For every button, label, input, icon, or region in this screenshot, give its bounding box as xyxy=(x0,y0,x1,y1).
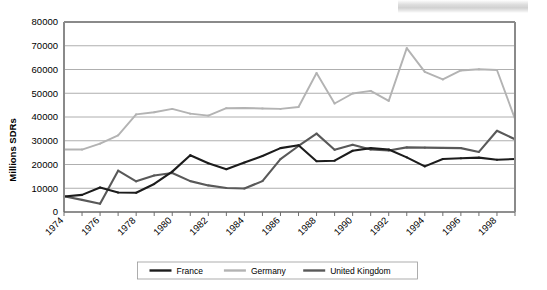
data-point xyxy=(81,194,83,196)
x-tick-label: 1990 xyxy=(331,215,354,238)
data-point xyxy=(280,158,282,160)
y-axis-tick-labels: 0100002000030000400005000060000700008000… xyxy=(32,16,58,217)
legend-label-united-kingdom: United Kingdom xyxy=(330,266,390,276)
data-point xyxy=(298,144,300,146)
data-point xyxy=(334,149,336,151)
data-point xyxy=(117,134,119,136)
y-tick-label: 60000 xyxy=(32,64,58,75)
data-point xyxy=(207,115,209,117)
x-tick-label: 1996 xyxy=(440,215,463,238)
data-point xyxy=(244,162,246,164)
data-point xyxy=(81,199,83,201)
data-point xyxy=(388,100,390,102)
data-point xyxy=(424,166,426,168)
data-point xyxy=(135,113,137,115)
data-point xyxy=(478,68,480,70)
data-point xyxy=(460,157,462,159)
data-point xyxy=(496,130,498,132)
data-point xyxy=(406,47,408,49)
series-line-germany xyxy=(64,48,515,149)
line-chart: 0100002000030000400005000060000700008000… xyxy=(0,0,547,290)
x-tick-label: 1982 xyxy=(187,215,210,238)
x-tick-label: 1986 xyxy=(259,215,282,238)
data-point xyxy=(316,160,318,162)
data-point xyxy=(244,107,246,109)
data-point xyxy=(189,113,191,115)
data-point xyxy=(99,187,101,189)
y-tick-label: 20000 xyxy=(32,159,58,170)
data-point xyxy=(316,133,318,135)
x-tick-label: 1988 xyxy=(295,215,318,238)
data-point xyxy=(207,185,209,187)
data-point xyxy=(352,144,354,146)
data-point xyxy=(280,108,282,110)
data-point xyxy=(189,154,191,156)
data-point xyxy=(117,192,119,194)
data-point xyxy=(117,170,119,172)
data-point xyxy=(225,168,227,170)
scan-artifact xyxy=(398,0,528,13)
data-point xyxy=(171,108,173,110)
data-point xyxy=(496,69,498,71)
data-point xyxy=(262,108,264,110)
data-point xyxy=(442,147,444,149)
y-tick-label: 40000 xyxy=(32,111,58,122)
data-point xyxy=(99,143,101,145)
data-point xyxy=(478,151,480,153)
data-point xyxy=(406,147,408,149)
data-point xyxy=(135,192,137,194)
chart-container: 0100002000030000400005000060000700008000… xyxy=(0,0,547,290)
data-point xyxy=(225,107,227,109)
x-axis-tick-labels: 1974197619781980198219841986198819901992… xyxy=(43,215,499,238)
data-point xyxy=(424,147,426,149)
x-tick-label: 1980 xyxy=(151,215,174,238)
data-point xyxy=(153,111,155,113)
data-point xyxy=(135,180,137,182)
data-point xyxy=(352,93,354,95)
gridlines xyxy=(64,46,515,189)
data-point xyxy=(334,160,336,162)
data-point xyxy=(352,150,354,152)
legend: FranceGermanyUnited Kingdom xyxy=(138,262,418,279)
data-point xyxy=(460,70,462,72)
data-series-group xyxy=(63,47,516,204)
y-tick-label: 80000 xyxy=(32,16,58,27)
x-tick-label: 1998 xyxy=(476,215,499,238)
data-point xyxy=(298,106,300,108)
x-tick-label: 1974 xyxy=(43,215,66,238)
data-point xyxy=(460,147,462,149)
y-tick-label: 70000 xyxy=(32,40,58,51)
data-point xyxy=(442,79,444,81)
y-tick-label: 50000 xyxy=(32,88,58,99)
data-point xyxy=(388,149,390,151)
data-point xyxy=(244,188,246,190)
x-tick-label: 1984 xyxy=(223,215,246,238)
data-point xyxy=(153,183,155,185)
y-tick-label: 10000 xyxy=(32,183,58,194)
x-tick-label: 1978 xyxy=(115,215,138,238)
data-point xyxy=(207,162,209,164)
data-point xyxy=(171,171,173,173)
data-point xyxy=(262,180,264,182)
data-point xyxy=(316,72,318,74)
data-point xyxy=(370,90,372,92)
y-axis-title: Millions SDRs xyxy=(7,118,18,181)
data-point xyxy=(406,156,408,158)
data-point xyxy=(478,157,480,159)
y-tick-label: 30000 xyxy=(32,135,58,146)
x-tick-label: 1992 xyxy=(367,215,390,238)
data-point xyxy=(496,159,498,161)
data-point xyxy=(153,175,155,177)
data-point xyxy=(280,147,282,149)
data-point xyxy=(189,180,191,182)
x-tick-label: 1976 xyxy=(79,215,102,238)
data-point xyxy=(262,155,264,157)
legend-label-france: France xyxy=(177,266,204,276)
data-point xyxy=(424,71,426,73)
data-point xyxy=(81,149,83,151)
x-tick-label: 1994 xyxy=(403,215,426,238)
data-point xyxy=(225,187,227,189)
data-point xyxy=(99,203,101,205)
legend-label-germany: Germany xyxy=(251,266,287,276)
data-point xyxy=(442,158,444,160)
